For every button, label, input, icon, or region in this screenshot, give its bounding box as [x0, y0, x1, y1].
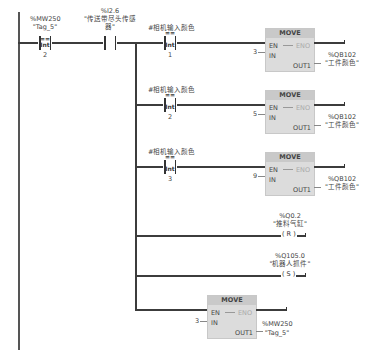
- compare-address: %MW250: [30, 16, 60, 23]
- branch-eno-wire: [314, 42, 344, 44]
- branch-move-block[interactable]: MOVE EN ENO IN OUT1: [265, 28, 315, 72]
- final-move-in-wire: [200, 321, 207, 322]
- move-out: OUT1: [293, 62, 311, 70]
- move-en: EN: [269, 42, 278, 50]
- final-move-block[interactable]: MOVE EN ENO IN OUT1: [207, 295, 257, 339]
- move-in: IN: [269, 114, 276, 122]
- move-en: EN: [269, 104, 278, 112]
- move-out: OUT1: [235, 329, 253, 337]
- final-move-out-address: %MW250: [262, 321, 292, 328]
- branch-eno-wire: [314, 104, 344, 106]
- branch-compare-operator: ==: [163, 92, 177, 98]
- move-en-eno-connector: [283, 169, 293, 170]
- branch-move-out-tag: "工件颜色": [320, 184, 364, 191]
- branch-move-block[interactable]: MOVE EN ENO IN OUT1: [265, 152, 315, 196]
- branch-move-in-wire: [258, 52, 265, 53]
- branch-move-out-tag: "工件颜色": [320, 122, 364, 129]
- branch-compare-type: Int: [163, 104, 177, 110]
- branch-compare-operator: ==: [163, 30, 177, 36]
- compare-value: 2: [38, 52, 52, 59]
- move-en-eno-connector: [283, 45, 293, 46]
- final-move-out-tag: "Tag_5": [262, 330, 292, 337]
- branch-move-out-wire: [314, 125, 321, 126]
- move-eno: ENO: [238, 309, 252, 317]
- move-out: OUT1: [293, 186, 311, 194]
- sensor-tag-line1: "传送带尽头传感: [80, 16, 140, 23]
- branch-eno-wire: [314, 166, 344, 168]
- coil-s-wire: [135, 275, 305, 277]
- main-rung-wire: [18, 42, 136, 44]
- move-in: IN: [269, 176, 276, 184]
- sensor-address: %I2.6: [88, 8, 132, 15]
- coil-r-wire: [135, 235, 305, 237]
- sensor-contact-i26[interactable]: [103, 36, 117, 50]
- branch-move-block[interactable]: MOVE EN ENO IN OUT1: [265, 90, 315, 134]
- branch-compare-value: 2: [163, 114, 177, 121]
- move-title: MOVE: [266, 153, 314, 162]
- branch-wire: [135, 104, 265, 106]
- branch-move-out-address: %QB102: [326, 176, 358, 183]
- coil-r-address: %Q0.2: [270, 213, 310, 220]
- branch-compare-value: 3: [163, 176, 177, 183]
- branch-compare-contact[interactable]: == Int: [163, 98, 177, 112]
- branch-endcap: [344, 102, 345, 106]
- move-in: IN: [269, 52, 276, 60]
- final-move-wire: [135, 309, 207, 311]
- move-en: EN: [269, 166, 278, 174]
- branch-compare-contact[interactable]: == Int: [163, 160, 177, 174]
- move-title: MOVE: [208, 296, 256, 305]
- branch-move-out-wire: [314, 187, 321, 188]
- move-eno: ENO: [296, 42, 310, 50]
- compare-type: Int: [38, 42, 52, 48]
- branch-move-in-wire: [258, 114, 265, 115]
- move-en-eno-connector: [283, 107, 293, 108]
- branch-vertical-wire: [135, 42, 137, 310]
- final-move-eno-wire: [256, 309, 286, 311]
- move-in: IN: [211, 319, 218, 327]
- branch-compare-contact[interactable]: == Int: [163, 36, 177, 50]
- final-move-endcap: [286, 307, 287, 311]
- branch-compare-value: 1: [163, 52, 177, 59]
- move-title: MOVE: [266, 91, 314, 100]
- move-eno: ENO: [296, 166, 310, 174]
- left-power-rail: [18, 12, 20, 350]
- move-out: OUT1: [293, 124, 311, 132]
- coil-r-endcap: [305, 233, 306, 237]
- branch-compare-type: Int: [163, 42, 177, 48]
- branch-move-in-wire: [258, 176, 265, 177]
- branch-wire: [135, 42, 265, 44]
- branch-compare-type: Int: [163, 166, 177, 172]
- branch-move-out-address: %QB102: [326, 114, 358, 121]
- move-eno: ENO: [296, 104, 310, 112]
- branch-compare-operator: ==: [163, 154, 177, 160]
- branch-move-out-address: %QB102: [326, 52, 358, 59]
- compare-contact-tag5[interactable]: == Int: [38, 36, 52, 50]
- sensor-tag-line2: 器": [100, 24, 120, 31]
- set-coil-q1050[interactable]: ( S ): [281, 271, 296, 278]
- branch-wire: [135, 166, 265, 168]
- coil-s-endcap: [305, 273, 306, 277]
- branch-move-out-wire: [314, 63, 321, 64]
- move-en: EN: [211, 309, 220, 317]
- move-en-eno-connector: [225, 312, 235, 313]
- move-title: MOVE: [266, 29, 314, 38]
- compare-tag: "Tag_5": [30, 24, 60, 31]
- branch-endcap: [344, 40, 345, 44]
- coil-s-address: %Q105.0: [268, 253, 312, 260]
- branch-endcap: [344, 164, 345, 168]
- reset-coil-q02[interactable]: ( R ): [281, 231, 297, 238]
- coil-r-tag: "推料气缸": [265, 221, 315, 228]
- branch-move-out-tag: "工件颜色": [320, 60, 364, 67]
- coil-s-tag: "机器人抓件": [262, 261, 318, 268]
- final-move-out-wire: [256, 331, 263, 332]
